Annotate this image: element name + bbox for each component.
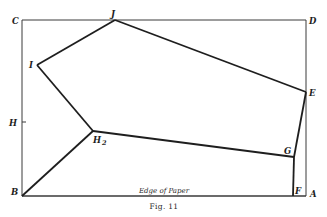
segment-g-f bbox=[293, 157, 294, 196]
figure-11-diagram: C J D I E H H2 G B F A Edge of Paper Fig… bbox=[0, 0, 327, 217]
label-h2: H2 bbox=[92, 135, 107, 147]
segment-h2-b bbox=[22, 131, 93, 196]
label-d: D bbox=[308, 16, 317, 26]
label-a: A bbox=[309, 189, 317, 199]
segment-g-h2 bbox=[93, 131, 294, 157]
label-f: F bbox=[294, 186, 302, 196]
label-j: J bbox=[109, 9, 116, 19]
label-c: C bbox=[12, 16, 19, 26]
edge-of-paper-label: Edge of Paper bbox=[138, 187, 190, 195]
label-b: B bbox=[10, 187, 18, 197]
segment-h2-i bbox=[37, 65, 93, 131]
label-g: G bbox=[284, 146, 291, 156]
fold-polygon bbox=[22, 20, 306, 196]
label-i: I bbox=[28, 60, 34, 70]
segment-e-g bbox=[294, 92, 306, 157]
segment-i-j bbox=[37, 20, 115, 65]
figure-caption: Fig. 11 bbox=[150, 202, 179, 211]
label-e: E bbox=[308, 88, 316, 98]
segment-j-e bbox=[115, 20, 306, 92]
paper-frame bbox=[22, 20, 306, 196]
label-h: H bbox=[8, 118, 18, 128]
